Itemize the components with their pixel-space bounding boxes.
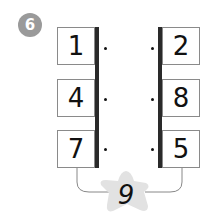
connector-graphic	[0, 0, 210, 222]
star-answer: 9	[113, 180, 139, 210]
right-connector-line	[145, 168, 182, 192]
